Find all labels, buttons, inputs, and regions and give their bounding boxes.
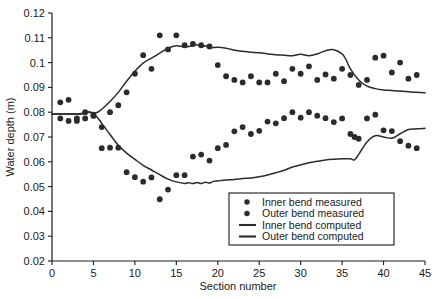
data-point <box>256 80 262 86</box>
x-tick-label: 15 <box>170 267 182 279</box>
legend-item: Outer bend measured <box>244 207 364 219</box>
data-point <box>289 109 295 115</box>
x-tick-label: 0 <box>49 267 55 279</box>
data-point <box>173 172 179 178</box>
data-point <box>132 174 138 180</box>
series-markers-1 <box>57 32 419 130</box>
data-point <box>132 71 138 77</box>
chart-legend: Inner bend measuredOuter bend measuredIn… <box>229 193 394 245</box>
data-point <box>198 152 204 158</box>
data-point <box>165 187 171 193</box>
data-point <box>240 80 246 86</box>
data-point <box>66 118 72 124</box>
y-tick-label: 0.1 <box>30 57 45 69</box>
data-point <box>240 124 246 130</box>
data-point <box>281 78 287 84</box>
data-point <box>215 145 221 151</box>
x-tick-label: 45 <box>419 267 431 279</box>
x-tick-label: 25 <box>253 267 265 279</box>
data-point <box>381 53 387 59</box>
y-tick-label: 0.09 <box>24 81 45 93</box>
data-point <box>66 97 72 103</box>
data-point <box>248 73 254 79</box>
data-point <box>406 143 412 149</box>
data-point <box>74 116 80 122</box>
measured-points <box>57 32 419 202</box>
water-depth-scatter-chart: 0.020.030.040.050.060.070.080.090.10.110… <box>0 0 442 299</box>
data-point <box>298 71 304 77</box>
data-point <box>107 109 113 115</box>
data-point <box>265 119 271 125</box>
data-point <box>389 70 395 76</box>
data-point <box>231 128 237 134</box>
data-point <box>273 120 279 126</box>
data-point <box>356 82 362 88</box>
series-markers-0 <box>57 109 419 202</box>
chart-figure: 0.020.030.040.050.060.070.080.090.10.110… <box>0 0 442 299</box>
data-point <box>149 175 155 181</box>
x-tick-label: 20 <box>212 267 224 279</box>
y-tick-label: 0.03 <box>24 230 45 242</box>
data-point <box>157 32 163 38</box>
data-point <box>397 138 403 144</box>
legend-label: Outer bend measured <box>262 207 364 219</box>
y-tick-label: 0.02 <box>24 255 45 267</box>
y-axis-title: Water depth (m) <box>4 97 16 176</box>
legend-label: Inner bend computed <box>262 219 361 231</box>
data-point <box>115 145 121 151</box>
x-tick-label: 5 <box>90 267 96 279</box>
data-point <box>273 71 279 77</box>
x-tick-label: 35 <box>336 267 348 279</box>
data-point <box>207 44 213 50</box>
data-point <box>348 72 354 78</box>
data-point <box>165 47 171 53</box>
data-point <box>265 80 271 86</box>
data-point <box>289 66 295 72</box>
data-point <box>331 119 337 125</box>
data-point <box>173 32 179 38</box>
data-point <box>231 77 237 83</box>
data-point <box>149 66 155 72</box>
y-axis-ticks: 0.020.030.040.050.060.070.080.090.10.110… <box>24 7 52 267</box>
data-point <box>190 41 196 47</box>
data-point <box>339 116 345 122</box>
y-tick-label: 0.11 <box>24 32 45 44</box>
y-tick-label: 0.08 <box>24 106 45 118</box>
data-point <box>397 60 403 66</box>
legend-label: Inner bend measured <box>262 196 362 208</box>
x-tick-label: 10 <box>129 267 141 279</box>
data-point <box>314 113 320 119</box>
data-point <box>99 145 105 151</box>
data-point <box>107 145 113 151</box>
data-point <box>223 142 229 148</box>
data-point <box>140 179 146 185</box>
data-point <box>306 63 312 69</box>
data-point <box>124 89 130 95</box>
data-point <box>57 116 63 122</box>
data-point <box>207 158 213 164</box>
data-point <box>57 99 63 105</box>
legend-marker-dot-icon <box>244 211 249 216</box>
data-point <box>157 196 163 202</box>
data-point <box>339 66 345 72</box>
legend-label: Outer bend computed <box>262 230 364 242</box>
data-point <box>256 128 262 134</box>
data-point <box>248 131 254 137</box>
x-axis-title: Section number <box>199 280 276 292</box>
data-point <box>140 52 146 58</box>
data-point <box>381 127 387 133</box>
data-point <box>182 172 188 178</box>
data-point <box>99 124 105 130</box>
legend-marker-dot-icon <box>244 199 249 204</box>
data-point <box>406 76 412 82</box>
data-point <box>372 112 378 118</box>
data-point <box>190 154 196 160</box>
x-axis-ticks: 051015202530354045 <box>49 261 431 279</box>
y-tick-label: 0.06 <box>24 156 45 168</box>
data-point <box>91 112 97 118</box>
data-point <box>323 72 329 78</box>
data-point <box>298 115 304 121</box>
data-point <box>115 102 121 108</box>
data-point <box>414 72 420 78</box>
y-tick-label: 0.12 <box>24 7 45 19</box>
